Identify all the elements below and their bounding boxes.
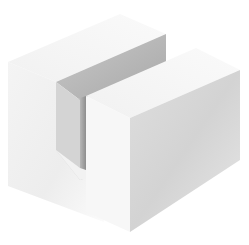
u-block-illustration: [0, 0, 249, 245]
front-prong-side: [86, 96, 130, 232]
u-block-render: [0, 0, 249, 245]
